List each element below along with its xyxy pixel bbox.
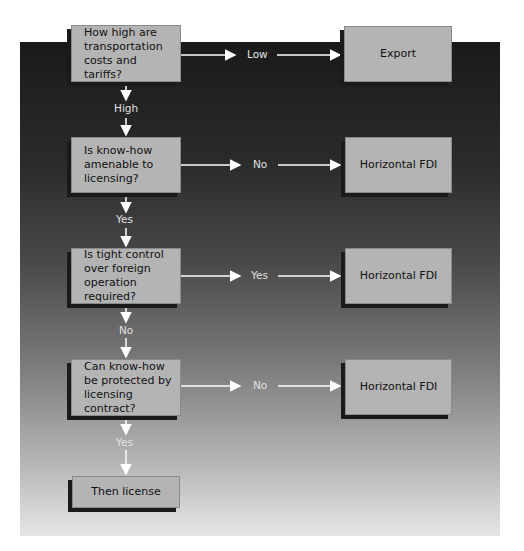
decision-text: Is know-how amenable to licensing?	[84, 144, 174, 186]
outcome-text: Horizontal FDI	[346, 158, 451, 172]
outcome-text: Then license	[73, 485, 179, 499]
outcome-box-horizontal-fdi-2: Horizontal FDI	[345, 248, 452, 304]
decision-box-transport-costs: How high are transportation costs and ta…	[71, 25, 181, 82]
outcome-box-export: Export	[344, 26, 452, 82]
outcome-text: Horizontal FDI	[346, 380, 451, 394]
branch-label-no: No	[253, 158, 267, 170]
decision-box-protect-know-how: Can know-how be protected by licensing c…	[71, 359, 181, 416]
decision-box-know-how-licensing: Is know-how amenable to licensing?	[71, 137, 181, 193]
decision-box-tight-control: Is tight control over foreign operation …	[71, 248, 181, 304]
decision-text: Is tight control over foreign operation …	[84, 248, 174, 304]
decision-text: Can know-how be protected by licensing c…	[84, 360, 174, 416]
branch-label-no: No	[253, 379, 267, 391]
branch-label-yes: Yes	[251, 269, 268, 281]
outcome-text: Horizontal FDI	[346, 269, 451, 283]
branch-label-yes: Yes	[116, 213, 133, 225]
branch-label-no: No	[119, 324, 133, 336]
outcome-text: Export	[345, 47, 451, 61]
branch-label-low: Low	[247, 48, 268, 60]
outcome-box-horizontal-fdi-3: Horizontal FDI	[345, 359, 452, 415]
branch-label-yes: Yes	[116, 436, 133, 448]
outcome-box-horizontal-fdi-1: Horizontal FDI	[345, 137, 452, 193]
branch-label-high: High	[114, 102, 138, 114]
decision-text: How high are transportation costs and ta…	[84, 26, 174, 82]
outcome-box-license: Then license	[72, 476, 180, 508]
